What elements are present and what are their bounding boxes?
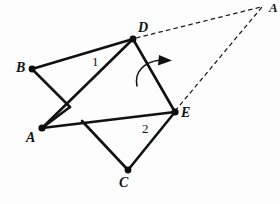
- solid-edge-group: [32, 39, 175, 170]
- vertex-dot-E: [171, 108, 178, 115]
- vertex-label-E: E: [181, 106, 190, 120]
- vertex-dot-group: [29, 36, 179, 174]
- edge-B-K: [32, 69, 70, 107]
- vertex-label-D: D: [138, 21, 148, 35]
- arrow-head-icon: [158, 55, 172, 66]
- geometry-figure: B D A E C A 1 2: [0, 0, 280, 204]
- vertex-dot-A: [38, 124, 45, 131]
- vertex-label-C: C: [119, 176, 128, 190]
- vertex-label-a-prime: A: [269, 1, 278, 14]
- rotation-arrow: [136, 55, 172, 86]
- vertex-label-A: A: [26, 131, 35, 145]
- edge-C-E: [128, 112, 175, 170]
- dashed-edge-group: [136, 7, 262, 111]
- dashed-E-Aprime: [175, 7, 262, 111]
- angle-label-2: 2: [142, 122, 149, 135]
- dashed-D-Aprime: [136, 7, 261, 38]
- vertex-label-B: B: [16, 61, 25, 75]
- vertex-dot-C: [125, 167, 132, 174]
- edge-M-C: [82, 121, 128, 170]
- edge-D-E: [133, 39, 175, 112]
- angle-label-1: 1: [92, 55, 99, 68]
- vertex-dot-B: [29, 66, 36, 73]
- vertex-dot-D: [130, 36, 137, 43]
